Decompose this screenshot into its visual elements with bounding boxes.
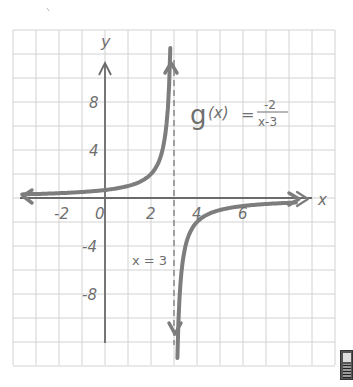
calculator-screen: [343, 353, 351, 362]
x-tick-label: -2: [54, 205, 69, 223]
x-axis-label: x: [317, 191, 327, 209]
x-tick-label: 2: [146, 205, 156, 223]
x-tick-label: 0: [95, 205, 105, 223]
y-tick-label: -4: [82, 238, 97, 256]
function-numerator: -2: [264, 98, 276, 112]
left-arrow-icon: [23, 190, 32, 203]
right-branch-curve: [177, 203, 296, 359]
y-axis-label: y: [100, 32, 111, 51]
graph-figure: y x -20246 84-4-8 g (x) = -2 x-3 x = 3: [0, 0, 353, 387]
x-tick-label: 4: [192, 205, 202, 223]
function-equals: =: [241, 105, 254, 124]
function-arg: (x): [208, 104, 229, 122]
asymptote-label: x = 3: [132, 253, 167, 268]
stray-mark: [47, 8, 49, 11]
x-tick-labels: -20246: [54, 205, 248, 223]
function-label: g (x) = -2 x-3: [190, 98, 288, 130]
function-name: g: [190, 100, 207, 130]
function-denominator: x-3: [258, 115, 277, 129]
y-tick-label: 8: [89, 94, 99, 112]
calculator-keys: [343, 364, 351, 378]
y-tick-label: -8: [82, 286, 97, 304]
function-curves: [22, 48, 296, 358]
y-tick-label: 4: [89, 142, 99, 160]
x-tick-label: 6: [238, 205, 248, 223]
calculator-icon: [340, 350, 353, 380]
left-branch-curve: [22, 48, 170, 194]
